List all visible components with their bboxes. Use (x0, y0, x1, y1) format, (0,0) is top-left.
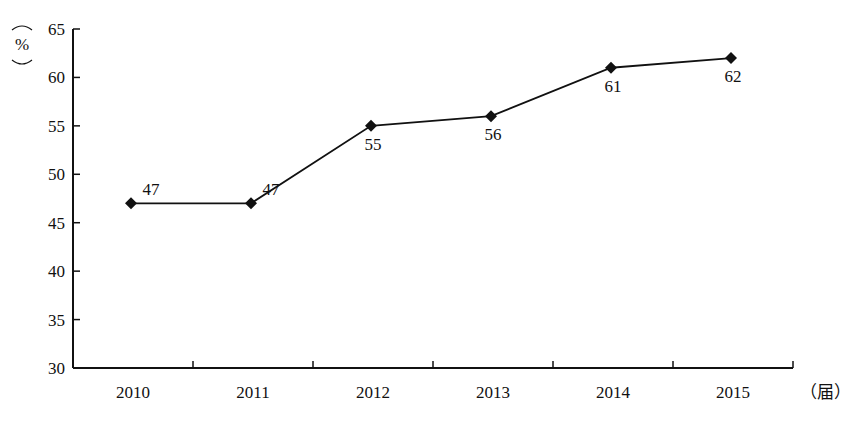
diamond-marker (365, 120, 377, 132)
y-unit-text: % (15, 35, 29, 54)
y-tick-label: 35 (48, 311, 65, 330)
y-unit-paren-top (12, 26, 32, 30)
diamond-marker (485, 110, 497, 122)
x-tick-label: 2014 (596, 383, 631, 402)
diamond-marker (125, 197, 137, 209)
y-unit-label: % (12, 26, 32, 64)
x-tick-label: 2012 (356, 383, 390, 402)
y-axis: 3035404550556065 (48, 20, 80, 378)
series-line (131, 58, 731, 203)
line-chart: 3035404550556065 20102011201220132014201… (0, 0, 855, 444)
data-label: 62 (725, 67, 742, 86)
diamond-marker (245, 197, 257, 209)
data-label: 47 (263, 180, 281, 199)
y-unit-paren-bottom (12, 60, 32, 64)
diamond-marker (605, 62, 617, 74)
y-tick-label: 30 (48, 359, 65, 378)
x-tick-label: 2011 (236, 383, 269, 402)
data-series: 474755566162 (125, 52, 742, 209)
diamond-marker (725, 52, 737, 64)
y-tick-label: 65 (48, 20, 65, 39)
data-label: 47 (143, 180, 161, 199)
y-tick-label: 55 (48, 117, 65, 136)
y-tick-label: 50 (48, 165, 65, 184)
data-label: 61 (605, 77, 622, 96)
x-tick-label: 2013 (476, 383, 510, 402)
x-tick-label: 2015 (716, 383, 750, 402)
data-label: 56 (485, 125, 502, 144)
x-tick-label: 2010 (116, 383, 150, 402)
y-tick-label: 40 (48, 262, 65, 281)
y-tick-label: 45 (48, 214, 65, 233)
x-axis: 201020112012201320142015 (73, 361, 793, 402)
x-unit-label: （届） (800, 383, 851, 402)
data-label: 55 (365, 135, 382, 154)
y-tick-label: 60 (48, 68, 65, 87)
